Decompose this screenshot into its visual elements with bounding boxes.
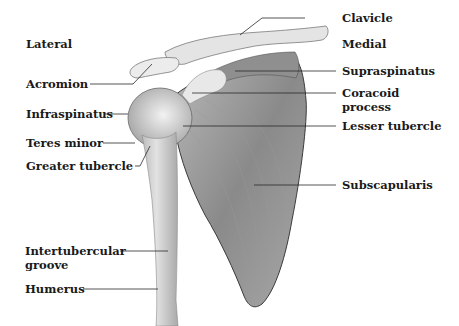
label-greater-tubercle: Greater tubercle [26, 160, 133, 173]
humerus-bone [142, 132, 178, 326]
label-coracoid-process-line2: process [342, 101, 391, 114]
label-teres-minor: Teres minor [26, 137, 103, 150]
label-acromion: Acromion [26, 78, 88, 91]
orientation-medial-label: Medial [342, 38, 386, 51]
label-humerus: Humerus [25, 283, 85, 296]
label-infraspinatus: Infraspinatus [26, 108, 113, 121]
label-lesser-tubercle: Lesser tubercle [342, 120, 442, 133]
label-coracoid-process-line1: Coracoid [342, 87, 399, 100]
label-supraspinatus: Supraspinatus [342, 65, 435, 78]
shoulder-anatomy-diagram: Lateral Medial Acromion Infraspinatus Te… [0, 0, 459, 326]
label-subscapularis: Subscapularis [342, 179, 433, 192]
label-clavicle: Clavicle [342, 12, 393, 25]
acromion-bone [130, 57, 179, 78]
label-intertubercular-groove-line2: groove [25, 259, 68, 272]
label-intertubercular-groove-line1: Intertubercular [25, 245, 126, 258]
orientation-lateral-label: Lateral [26, 38, 72, 51]
